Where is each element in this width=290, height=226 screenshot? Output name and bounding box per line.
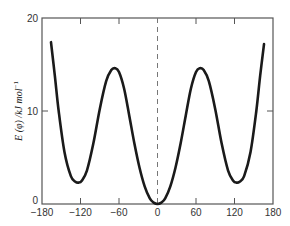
y-tick-label: 20 [27,13,39,24]
y-tick-label: 10 [27,106,39,117]
x-tick-label: 120 [226,207,243,218]
y-axis-ticks: 01020 [27,13,273,206]
y-axis-label: E (φ) /kJ mol−1 [12,81,25,142]
x-tick-label: −120 [69,207,92,218]
torsional-energy-chart: −180−120−60060120180 01020 E (φ) /kJ mol… [0,0,290,226]
x-tick-label: 0 [155,207,161,218]
y-axis-label-main: E (φ) /kJ mol [13,88,25,142]
x-tick-label: −180 [31,207,54,218]
svg-text:E (φ) /kJ mol−1: E (φ) /kJ mol−1 [12,81,25,142]
y-tick-label: 0 [32,195,38,206]
x-tick-label: 180 [265,207,282,218]
x-tick-label: −60 [111,207,128,218]
x-tick-label: 60 [190,207,202,218]
y-axis-label-sup: −1 [12,81,20,89]
x-axis-ticks: −180−120−60060120180 [31,18,282,218]
